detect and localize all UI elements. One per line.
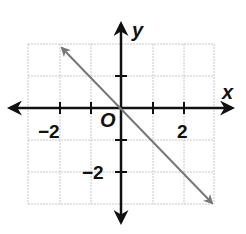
y-tick-label-neg2: −2 <box>82 163 104 182</box>
x-tick-label-2: 2 <box>177 122 188 141</box>
x-tick-label-neg2: −2 <box>38 122 60 141</box>
origin-label: O <box>100 110 116 130</box>
coordinate-plane <box>0 0 246 234</box>
x-axis-label: x <box>222 82 233 102</box>
y-axis-label: y <box>132 20 143 40</box>
